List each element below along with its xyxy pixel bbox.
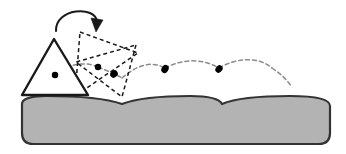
ground-block — [22, 96, 330, 144]
diagram-canvas — [0, 0, 346, 154]
figure-root — [0, 0, 346, 154]
ground-shape — [22, 96, 330, 144]
com-dot-pose-1 — [52, 72, 58, 78]
com-dot-pose-2 — [95, 64, 101, 70]
